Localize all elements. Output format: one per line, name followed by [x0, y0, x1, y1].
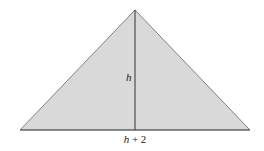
base-label: h + 2 [124, 133, 147, 145]
height-label: h [126, 71, 132, 83]
base-label-text: h + 2 [124, 133, 147, 145]
triangle-diagram: h h + 2 [0, 0, 264, 151]
